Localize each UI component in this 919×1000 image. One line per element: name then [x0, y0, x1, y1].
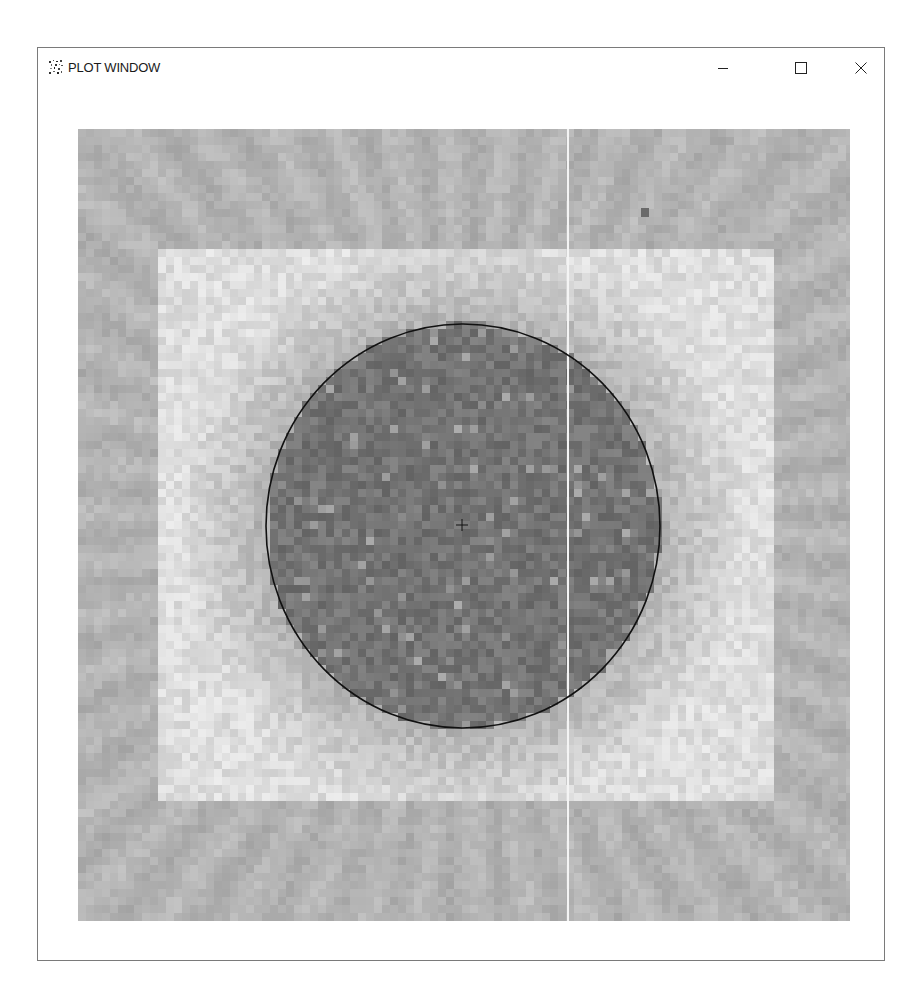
plot-canvas-area[interactable] [78, 129, 850, 921]
maximize-icon [795, 62, 807, 74]
maximize-button[interactable] [778, 48, 824, 88]
window-title: PLOT WINDOW [68, 60, 160, 75]
minimize-button[interactable] [700, 48, 746, 88]
close-icon [855, 62, 867, 74]
minimize-icon [717, 62, 729, 74]
scatter-app-icon [48, 59, 64, 75]
plot-window: PLOT WINDOW [37, 47, 885, 961]
noise-image [78, 129, 850, 921]
close-button[interactable] [838, 48, 884, 88]
title-bar[interactable]: PLOT WINDOW [38, 48, 884, 88]
